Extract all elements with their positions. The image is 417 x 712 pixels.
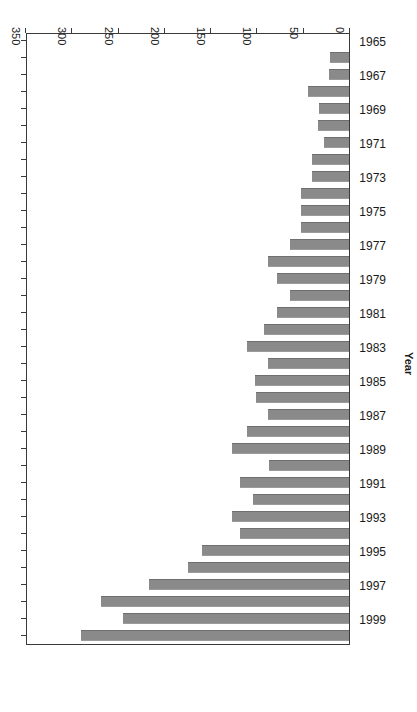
year-tick [21,432,26,433]
year-tick [21,75,26,76]
year-tick-label: 1967 [359,70,386,84]
year-tick-label: 1977 [359,240,386,254]
year-tick [21,466,26,467]
bar-1971 [324,137,349,148]
year-tick-label: 1991 [359,478,386,492]
bar-1997 [149,579,349,590]
year-tick [21,92,26,93]
year-tick-label: 1995 [359,546,386,560]
year-axis-title: Year [403,352,415,375]
publications-axis: 050100150200250300350 [26,0,350,33]
publications-tick-label: 200 [149,27,161,45]
bar-1987 [268,409,349,420]
bar-1986 [256,392,349,403]
year-tick-label: 1965 [359,36,386,50]
publications-tick-label: 150 [195,27,207,45]
year-tick [21,534,26,535]
year-tick [21,194,26,195]
year-tick [21,483,26,484]
year-tick-label: 1997 [359,580,386,594]
bar-1980 [290,290,349,301]
year-tick [21,109,26,110]
publications-tick [164,28,165,33]
bar-1982 [264,324,349,335]
year-tick-label: 1969 [359,104,386,118]
publications-tick-label: 250 [103,27,115,45]
bar-1969 [319,103,349,114]
publications-tick-label: 300 [56,27,68,45]
bar-1976 [301,222,349,233]
publications-tick [118,28,119,33]
year-tick [21,228,26,229]
year-tick [21,279,26,280]
year-tick [21,500,26,501]
year-axis-title-wrap: Year [399,322,417,382]
year-tick-label: 1981 [359,308,386,322]
bar-1973 [312,171,349,182]
bar-1967 [329,69,349,80]
year-tick [21,313,26,314]
publications-tick-label: 100 [241,27,253,45]
year-tick-label: 1973 [359,172,386,186]
year-tick [21,330,26,331]
year-tick [21,551,26,552]
bar-1995 [202,545,349,556]
year-tick [21,415,26,416]
year-tick [21,381,26,382]
year-tick-label: 1993 [359,512,386,526]
year-tick [21,58,26,59]
bar-1988 [247,426,349,437]
year-tick [21,398,26,399]
year-tick-label: 1971 [359,138,386,152]
bar-1984 [268,358,349,369]
publications-by-year-bar-chart: 050100150200250300350 Publications 19651… [0,0,417,712]
plot-area [26,33,350,645]
year-tick [21,211,26,212]
bar-1992 [253,494,349,505]
year-tick [21,585,26,586]
year-tick [21,602,26,603]
year-tick [21,41,26,42]
publications-tick [71,28,72,33]
year-tick-label: 1989 [359,444,386,458]
bar-1983 [247,341,349,352]
year-tick [21,449,26,450]
year-tick [21,143,26,144]
bar-1977 [290,239,349,250]
year-tick [21,296,26,297]
bar-1968 [308,86,349,97]
year-tick-label: 1979 [359,274,386,288]
bar-1989 [232,443,349,454]
bar-1972 [312,154,349,165]
bar-1990 [269,460,349,471]
bar-1975 [301,205,349,216]
publications-tick [256,28,257,33]
publications-tick-label: 0 [334,27,346,33]
year-tick [21,262,26,263]
bar-1978 [268,256,349,267]
bar-1996 [188,562,349,573]
year-tick [21,517,26,518]
publications-tick [210,28,211,33]
bar-1994 [240,528,349,539]
publications-tick-label: 50 [288,27,300,39]
bar-1974 [301,188,349,199]
year-tick-label: 1983 [359,342,386,356]
publications-tick [303,28,304,33]
bar-1993 [232,511,349,522]
year-tick [21,364,26,365]
year-tick-label: 1999 [359,614,386,628]
year-tick [21,619,26,620]
bar-1991 [240,477,349,488]
year-tick-label: 1985 [359,376,386,390]
year-tick [21,160,26,161]
bar-2000 [81,630,349,641]
bar-1979 [277,273,349,284]
year-tick [21,245,26,246]
year-tick [21,636,26,637]
publications-tick [349,28,350,33]
bar-1970 [318,120,349,131]
year-tick [21,347,26,348]
bar-1966 [331,52,350,63]
bar-1999 [123,613,349,624]
